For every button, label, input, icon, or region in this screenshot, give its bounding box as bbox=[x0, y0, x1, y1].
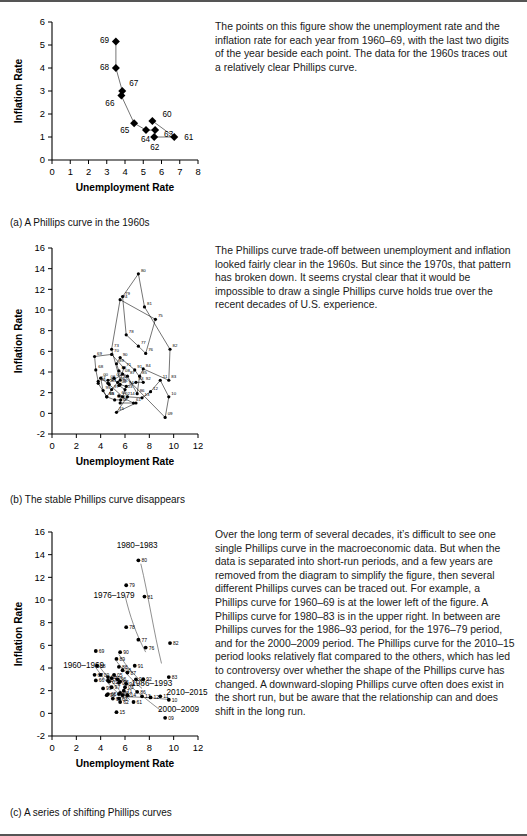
data-point-label: 66 bbox=[99, 677, 105, 683]
data-point bbox=[121, 295, 124, 298]
data-point-label: 07 bbox=[111, 677, 117, 683]
data-point-label: 62 bbox=[123, 699, 129, 705]
data-point-label: 90 bbox=[123, 649, 129, 655]
data-point bbox=[101, 687, 105, 691]
data-point-label: 80 bbox=[141, 557, 147, 563]
data-point bbox=[126, 375, 129, 378]
data-point-label: 77 bbox=[141, 637, 147, 643]
data-point-label: 15 bbox=[119, 406, 124, 411]
data-point bbox=[119, 356, 122, 359]
data-point-label: 69 bbox=[97, 351, 102, 356]
data-point bbox=[132, 700, 136, 704]
x-tick-label: 8 bbox=[147, 742, 152, 753]
data-point bbox=[144, 646, 148, 650]
data-point-label: 98 bbox=[110, 692, 116, 698]
data-point bbox=[115, 710, 119, 714]
data-point bbox=[142, 126, 150, 134]
data-point-label: 14 bbox=[130, 391, 135, 396]
data-point bbox=[154, 318, 157, 321]
data-point-label: 97 bbox=[115, 684, 121, 690]
data-point bbox=[119, 298, 122, 301]
y-tick-label: 16 bbox=[35, 242, 45, 253]
data-point-label: 68 bbox=[100, 63, 110, 72]
data-point bbox=[125, 333, 128, 336]
data-point-label: 84 bbox=[146, 363, 151, 368]
data-point-label: 90 bbox=[123, 352, 128, 357]
data-point-label: 92 bbox=[146, 376, 151, 381]
data-point-label: 00 bbox=[103, 372, 108, 377]
y-tick-label: 2 bbox=[40, 108, 45, 119]
panel-a: 0123456012345678Unemployment RateInflati… bbox=[0, 12, 527, 242]
data-point bbox=[110, 353, 113, 356]
data-point bbox=[93, 355, 96, 358]
era-label: 2000–2009 bbox=[158, 705, 199, 714]
x-tick-label: 6 bbox=[122, 742, 127, 753]
data-point bbox=[134, 401, 137, 404]
data-point bbox=[113, 398, 116, 401]
data-point-label: 65 bbox=[120, 126, 130, 135]
data-point bbox=[167, 379, 170, 382]
data-point bbox=[117, 665, 121, 669]
data-point-label: 78 bbox=[129, 624, 135, 630]
data-point bbox=[151, 126, 159, 134]
y-tick-label: 3 bbox=[40, 85, 45, 96]
data-point-label: 60 bbox=[162, 110, 172, 119]
x-tick-label: 8 bbox=[147, 440, 152, 451]
x-tick-label: 12 bbox=[193, 742, 203, 753]
data-point-label: 10 bbox=[172, 697, 178, 703]
data-point bbox=[106, 679, 110, 683]
x-tick-label: 3 bbox=[104, 166, 109, 177]
era-label: 1960–1969 bbox=[63, 661, 104, 670]
data-point-label: 68 bbox=[98, 364, 103, 369]
data-point bbox=[112, 64, 120, 72]
chart-a: 0123456012345678Unemployment RateInflati… bbox=[8, 12, 213, 242]
chart-b: -20246810121416024681012Unemployment Rat… bbox=[8, 238, 213, 518]
chart-a-svg: 0123456012345678Unemployment RateInflati… bbox=[8, 12, 213, 207]
y-tick-label: 10 bbox=[35, 594, 45, 605]
data-point-label: 11 bbox=[163, 374, 168, 379]
data-point bbox=[136, 558, 140, 562]
y-tick-label: 6 bbox=[40, 16, 45, 27]
data-point-label: 93 bbox=[138, 376, 143, 381]
y-axis-title: Inflation Rate bbox=[13, 601, 24, 666]
y-tick-label: 16 bbox=[35, 526, 45, 537]
panel-a-caption: (a) A Phillips curve in the 1960s bbox=[10, 217, 150, 228]
data-point bbox=[97, 380, 100, 383]
data-point bbox=[124, 625, 128, 629]
data-point-label: 69 bbox=[99, 648, 105, 654]
data-point bbox=[163, 716, 167, 720]
data-point bbox=[124, 583, 128, 587]
data-point-label: 12 bbox=[154, 694, 160, 700]
panel-c: -20246810121416024681012Unemployment Rat… bbox=[0, 522, 527, 832]
data-point bbox=[110, 348, 113, 351]
data-point bbox=[123, 388, 126, 391]
data-point bbox=[137, 345, 140, 348]
data-point bbox=[150, 133, 158, 141]
data-point bbox=[94, 679, 98, 683]
data-point-label: 83 bbox=[171, 374, 176, 379]
data-point bbox=[167, 395, 170, 398]
data-point-label: 79 bbox=[125, 291, 130, 296]
data-point-label: 71 bbox=[126, 362, 131, 367]
data-point bbox=[105, 395, 108, 398]
data-point-label: 04 bbox=[121, 379, 126, 384]
chart-c: -20246810121416024681012Unemployment Rat… bbox=[8, 522, 213, 832]
y-tick-label: 0 bbox=[40, 708, 45, 719]
data-point bbox=[140, 396, 143, 399]
x-tick-label: 4 bbox=[98, 742, 103, 753]
x-tick-label: 5 bbox=[141, 166, 146, 177]
data-point-label: 09 bbox=[168, 715, 174, 721]
data-point bbox=[148, 117, 156, 125]
data-point bbox=[143, 305, 146, 308]
figure-page: 0123456012345678Unemployment RateInflati… bbox=[0, 0, 527, 836]
x-tick-label: 6 bbox=[159, 166, 164, 177]
data-point bbox=[164, 416, 167, 419]
data-point bbox=[105, 693, 109, 697]
y-tick-label: -2 bbox=[37, 730, 45, 741]
data-point-label: 69 bbox=[100, 36, 110, 45]
data-point bbox=[112, 38, 120, 46]
data-point-label: 82 bbox=[173, 343, 178, 348]
data-point-label: 66 bbox=[105, 99, 115, 108]
y-tick-label: 6 bbox=[40, 640, 45, 651]
data-point bbox=[134, 381, 137, 384]
